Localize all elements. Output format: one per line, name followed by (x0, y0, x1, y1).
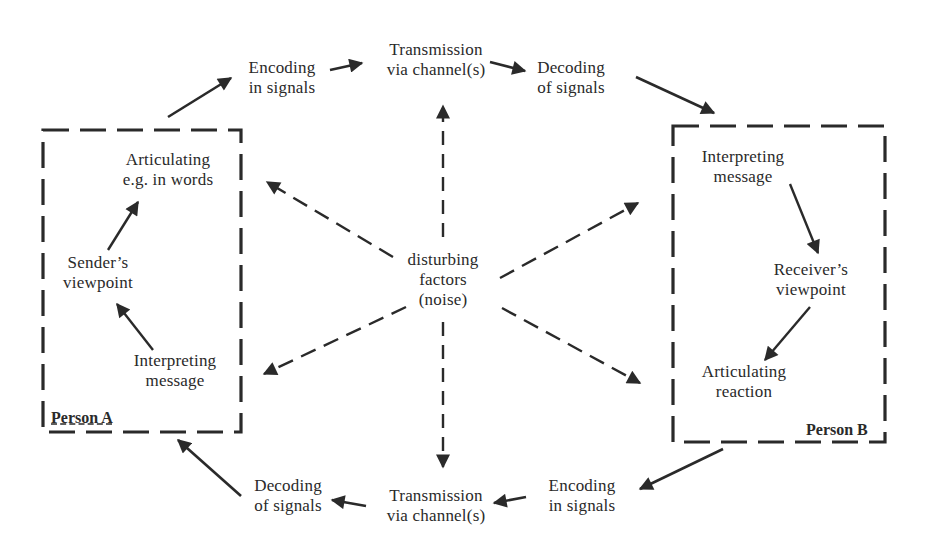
arrow-viewpoint-to-articulating-b (765, 307, 810, 360)
bottom-decoding-line1: Decoding (254, 476, 322, 496)
noise-arrow-upper-left (267, 182, 393, 257)
arrow-b-to-encoding (640, 449, 723, 489)
person-b-articulating-label: Articulating reaction (702, 362, 787, 402)
arrow-decoding-to-b (636, 77, 714, 113)
person-a-interpreting-label: Interpreting message (134, 351, 217, 391)
top-encoding-line1: Encoding (249, 58, 316, 78)
arrow-interpreting-to-viewpoint-a (117, 304, 153, 350)
top-transmission-line2: via channel(s) (387, 60, 486, 80)
bottom-encoding-label: Encoding in signals (549, 476, 616, 516)
noise-line1: disturbing (408, 250, 479, 270)
arrow-viewpoint-to-articulating-a (108, 202, 138, 250)
noise-arrow-upper-right (500, 203, 638, 278)
person-a-viewpoint-line2: viewpoint (63, 273, 133, 293)
top-decoding-line1: Decoding (537, 58, 605, 78)
top-decoding-label: Decoding of signals (537, 58, 605, 98)
person-b-viewpoint-line2: viewpoint (774, 280, 848, 300)
noise-arrow-lower-right (502, 308, 640, 383)
person-b-interpreting-label: Interpreting message (702, 147, 785, 187)
person-a-articulating-line1: Articulating (123, 150, 213, 170)
person-a-articulating-line2: e.g. in words (123, 170, 213, 190)
bottom-transmission-label: Transmission via channel(s) (387, 486, 486, 526)
person-b-viewpoint-line1: Receiver’s (774, 260, 848, 280)
arrow-a-to-encoding (168, 78, 231, 117)
top-encoding-line2: in signals (249, 78, 316, 98)
arrow-transmission-to-decoding-bottom (332, 500, 366, 506)
bottom-decoding-line2: of signals (254, 496, 322, 516)
person-a-viewpoint-label: Sender’s viewpoint (63, 253, 133, 293)
person-a-interpreting-line1: Interpreting (134, 351, 217, 371)
person-b-interpreting-line1: Interpreting (702, 147, 785, 167)
person-b-articulating-line2: reaction (702, 382, 787, 402)
noise-line3: (noise) (408, 290, 479, 310)
bottom-encoding-line2: in signals (549, 496, 616, 516)
bottom-transmission-line1: Transmission (387, 486, 486, 506)
person-a-interpreting-line2: message (134, 371, 217, 391)
noise-line2: factors (408, 270, 479, 290)
arrow-encoding-to-transmission-bottom (494, 497, 526, 503)
top-decoding-line2: of signals (537, 78, 605, 98)
top-transmission-label: Transmission via channel(s) (387, 40, 486, 80)
person-a-label: Person A (51, 409, 113, 427)
noise-arrow-lower-left (264, 307, 406, 374)
top-transmission-line1: Transmission (387, 40, 486, 60)
bottom-transmission-line2: via channel(s) (387, 506, 486, 526)
bottom-decoding-label: Decoding of signals (254, 476, 322, 516)
noise-label: disturbing factors (noise) (408, 250, 479, 310)
person-b-articulating-line1: Articulating (702, 362, 787, 382)
arrow-transmission-to-decoding (490, 62, 525, 71)
person-b-interpreting-line2: message (702, 167, 785, 187)
arrow-encoding-to-transmission (330, 63, 362, 70)
person-b-label: Person B (806, 421, 868, 439)
top-encoding-label: Encoding in signals (249, 58, 316, 98)
person-a-viewpoint-line1: Sender’s (63, 253, 133, 273)
person-b-viewpoint-label: Receiver’s viewpoint (774, 260, 848, 300)
arrow-interpreting-to-viewpoint-b (790, 184, 818, 253)
arrow-decoding-to-a (178, 440, 241, 496)
person-a-articulating-label: Articulating e.g. in words (123, 150, 213, 190)
bottom-encoding-line1: Encoding (549, 476, 616, 496)
